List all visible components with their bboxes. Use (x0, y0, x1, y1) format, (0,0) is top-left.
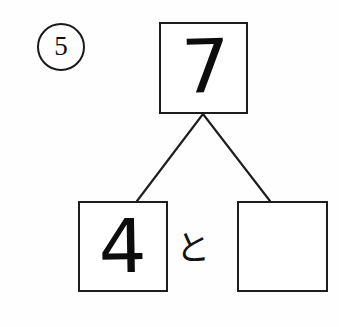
problem-number-badge: 5 (37, 23, 85, 71)
conjunction-label: と (176, 231, 210, 265)
whole-box[interactable]: 7 (159, 22, 248, 114)
part-one-value: 4 (98, 208, 147, 283)
conjunction-text: と (176, 224, 210, 272)
part-two-box[interactable] (237, 201, 328, 292)
whole-value: 7 (180, 28, 231, 103)
worksheet-canvas: 5 7 4 と (0, 0, 339, 327)
problem-number-label: 5 (54, 33, 68, 60)
right-branch-line (203, 114, 270, 201)
left-branch-line (137, 114, 203, 201)
part-one-box[interactable]: 4 (78, 201, 168, 292)
